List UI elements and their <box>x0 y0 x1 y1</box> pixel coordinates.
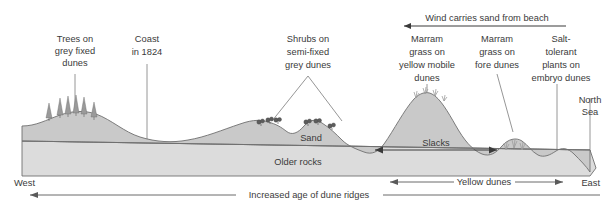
callout-marram-yellow-line3: yellow mobile <box>399 60 455 70</box>
callout-shrubs-line2: semi-fixed <box>287 47 329 57</box>
callout-coast-line2: in 1824 <box>132 47 163 57</box>
sand-layer-label: Sand <box>300 133 322 143</box>
callout-trees-line3: dunes <box>62 58 88 68</box>
dune-diagram-svg: Trees on grey fixed dunes Coast in 1824 … <box>0 0 614 209</box>
wind-annotation-label: Wind carries sand from beach <box>425 13 549 23</box>
callout-marram-fore-line3: fore dunes <box>475 60 519 70</box>
wind-arrow <box>404 23 566 29</box>
callout-salt-tolerant-line3: plants on <box>542 60 580 70</box>
callout-salt-tolerant-line4: embryo dunes <box>532 73 591 83</box>
callout-salt-tolerant: Salt- tolerant plants on embryo dunes <box>532 34 591 83</box>
callout-marram-yellow-line1: Marram <box>411 34 443 44</box>
axis-label-west: West <box>14 178 35 188</box>
callout-marram-yellow: Marram grass on yellow mobile dunes <box>399 34 455 83</box>
callout-shrubs-line3: grey dunes <box>285 60 331 70</box>
callout-trees: Trees on grey fixed dunes <box>55 34 95 68</box>
callout-shrubs: Shrubs on semi-fixed grey dunes <box>285 34 331 70</box>
callout-marram-yellow-line4: dunes <box>414 73 440 83</box>
leader-line-shrubs-left <box>272 76 308 121</box>
yellow-dunes-arrowhead-right <box>555 179 563 185</box>
age-axis-arrowhead <box>30 192 38 198</box>
callout-marram-fore-line2: grass on <box>479 47 515 57</box>
callout-marram-fore-line1: Marram <box>481 34 513 44</box>
axis-label-east: East <box>581 178 600 188</box>
shrub-icon <box>274 118 282 125</box>
callout-coast-line1: Coast <box>135 34 160 44</box>
yellow-dunes-arrowhead-left <box>390 179 398 185</box>
tree-icon <box>73 95 79 116</box>
tree-icon <box>57 98 63 118</box>
callout-shrubs-line1: Shrubs on <box>287 34 329 44</box>
axis-label-yellow-dunes: Yellow dunes <box>457 177 512 187</box>
callout-marram-fore: Marram grass on fore dunes <box>475 34 519 70</box>
tree-icon <box>65 96 71 117</box>
dune-cross-section-diagram: Trees on grey fixed dunes Coast in 1824 … <box>0 0 614 209</box>
callout-trees-line1: Trees on <box>57 34 93 44</box>
leader-line-shrubs-right <box>308 76 342 121</box>
marram-grass-icon <box>442 95 447 101</box>
slacks-label: Slacks <box>422 138 450 148</box>
callout-north-sea-line1: North <box>579 95 602 105</box>
callout-salt-tolerant-line2: tolerant <box>545 47 576 57</box>
axis-label-increased-age: Increased age of dune ridges <box>249 190 370 200</box>
callout-north-sea-line2: Sea <box>582 107 599 117</box>
tree-icon <box>81 97 87 117</box>
callout-marram-yellow-line2: grass on <box>409 47 445 57</box>
older-rocks-label: Older rocks <box>274 157 322 167</box>
callout-salt-tolerant-line1: Salt- <box>551 34 570 44</box>
callout-trees-line2: grey fixed <box>55 46 95 56</box>
leader-line-marram-fore <box>497 74 513 132</box>
callout-coast: Coast in 1824 <box>132 34 163 57</box>
